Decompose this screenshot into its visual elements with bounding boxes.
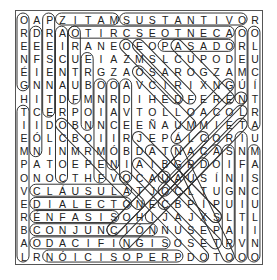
- grid-letter[interactable]: A: [223, 27, 236, 40]
- grid-letter[interactable]: A: [223, 66, 236, 79]
- grid-letter[interactable]: E: [236, 53, 249, 66]
- grid-letter[interactable]: S: [184, 40, 197, 53]
- grid-letter[interactable]: O: [120, 198, 133, 211]
- grid-letter[interactable]: A: [171, 40, 184, 53]
- grid-letter[interactable]: S: [146, 14, 159, 27]
- grid-letter[interactable]: T: [171, 27, 184, 40]
- grid-letter[interactable]: R: [56, 106, 69, 119]
- grid-letter[interactable]: C: [82, 251, 95, 264]
- grid-letter[interactable]: E: [223, 93, 236, 106]
- grid-letter[interactable]: Ó: [107, 145, 120, 158]
- grid-letter[interactable]: O: [56, 158, 69, 171]
- grid-letter[interactable]: I: [223, 158, 236, 171]
- grid-letter[interactable]: O: [82, 132, 95, 145]
- grid-letter[interactable]: N: [184, 27, 197, 40]
- grid-letter[interactable]: T: [159, 14, 172, 27]
- grid-letter[interactable]: E: [197, 237, 210, 250]
- grid-letter[interactable]: C: [56, 53, 69, 66]
- grid-letter[interactable]: G: [223, 185, 236, 198]
- grid-letter[interactable]: B: [171, 198, 184, 211]
- grid-letter[interactable]: S: [82, 211, 95, 224]
- grid-letter[interactable]: D: [171, 93, 184, 106]
- grid-letter[interactable]: I: [133, 93, 146, 106]
- grid-letter[interactable]: L: [248, 211, 261, 224]
- grid-letter[interactable]: É: [30, 211, 43, 224]
- grid-letter[interactable]: E: [146, 198, 159, 211]
- grid-letter[interactable]: Ó: [133, 224, 146, 237]
- grid-letter[interactable]: C: [210, 27, 223, 40]
- grid-letter[interactable]: M: [69, 145, 82, 158]
- grid-letter[interactable]: O: [69, 27, 82, 40]
- grid-letter[interactable]: O: [210, 132, 223, 145]
- grid-letter[interactable]: O: [18, 14, 31, 27]
- grid-letter[interactable]: S: [159, 237, 172, 250]
- grid-letter[interactable]: A: [107, 53, 120, 66]
- grid-letter[interactable]: R: [43, 27, 56, 40]
- grid-letter[interactable]: N: [30, 145, 43, 158]
- grid-letter[interactable]: A: [133, 158, 146, 171]
- grid-letter[interactable]: R: [82, 66, 95, 79]
- grid-letter[interactable]: N: [248, 237, 261, 250]
- grid-letter[interactable]: I: [18, 119, 31, 132]
- grid-letter[interactable]: M: [94, 145, 107, 158]
- grid-letter[interactable]: T: [82, 27, 95, 40]
- grid-letter[interactable]: Í: [248, 79, 261, 92]
- grid-letter[interactable]: O: [120, 172, 133, 185]
- grid-letter[interactable]: L: [223, 211, 236, 224]
- grid-letter[interactable]: O: [171, 237, 184, 250]
- grid-letter[interactable]: A: [197, 40, 210, 53]
- grid-letter[interactable]: O: [248, 27, 261, 40]
- grid-letter[interactable]: U: [69, 185, 82, 198]
- grid-letter[interactable]: A: [171, 14, 184, 27]
- grid-letter[interactable]: T: [197, 14, 210, 27]
- grid-letter[interactable]: R: [223, 132, 236, 145]
- grid-letter[interactable]: N: [210, 79, 223, 92]
- grid-letter[interactable]: R: [107, 27, 120, 40]
- grid-letter[interactable]: A: [30, 14, 43, 27]
- grid-letter[interactable]: I: [146, 211, 159, 224]
- grid-letter[interactable]: E: [18, 198, 31, 211]
- grid-letter[interactable]: A: [120, 79, 133, 92]
- grid-letter[interactable]: N: [30, 172, 43, 185]
- grid-letter[interactable]: A: [248, 158, 261, 171]
- grid-letter[interactable]: M: [107, 14, 120, 27]
- grid-letter[interactable]: V: [120, 106, 133, 119]
- grid-letter[interactable]: C: [30, 185, 43, 198]
- grid-letter[interactable]: A: [18, 237, 31, 250]
- grid-letter[interactable]: X: [197, 211, 210, 224]
- grid-letter[interactable]: M: [133, 53, 146, 66]
- grid-letter[interactable]: J: [184, 211, 197, 224]
- grid-letter[interactable]: N: [56, 66, 69, 79]
- grid-letter[interactable]: P: [159, 40, 172, 53]
- grid-letter[interactable]: D: [43, 119, 56, 132]
- grid-letter[interactable]: R: [18, 27, 31, 40]
- grid-letter[interactable]: Á: [56, 185, 69, 198]
- grid-letter[interactable]: E: [133, 40, 146, 53]
- grid-letter[interactable]: Á: [171, 132, 184, 145]
- grid-letter[interactable]: T: [82, 14, 95, 27]
- grid-letter[interactable]: N: [30, 79, 43, 92]
- grid-letter[interactable]: I: [30, 93, 43, 106]
- grid-letter[interactable]: I: [236, 198, 249, 211]
- grid-letter[interactable]: J: [159, 211, 172, 224]
- grid-letter[interactable]: E: [18, 40, 31, 53]
- grid-letter[interactable]: C: [159, 198, 172, 211]
- grid-letter[interactable]: I: [94, 53, 107, 66]
- grid-letter[interactable]: D: [133, 145, 146, 158]
- grid-letter[interactable]: Ó: [56, 251, 69, 264]
- grid-letter[interactable]: D: [30, 198, 43, 211]
- grid-letter[interactable]: N: [184, 14, 197, 27]
- grid-letter[interactable]: V: [18, 185, 31, 198]
- grid-letter[interactable]: N: [94, 40, 107, 53]
- grid-letter[interactable]: U: [69, 53, 82, 66]
- grid-letter[interactable]: E: [43, 40, 56, 53]
- grid-letter[interactable]: N: [146, 224, 159, 237]
- grid-letter[interactable]: U: [210, 185, 223, 198]
- grid-letter[interactable]: F: [94, 237, 107, 250]
- grid-letter[interactable]: I: [43, 145, 56, 158]
- grid-letter[interactable]: U: [171, 119, 184, 132]
- grid-letter[interactable]: I: [94, 106, 107, 119]
- grid-letter[interactable]: O: [56, 119, 69, 132]
- grid-letter[interactable]: C: [94, 198, 107, 211]
- grid-letter[interactable]: O: [236, 27, 249, 40]
